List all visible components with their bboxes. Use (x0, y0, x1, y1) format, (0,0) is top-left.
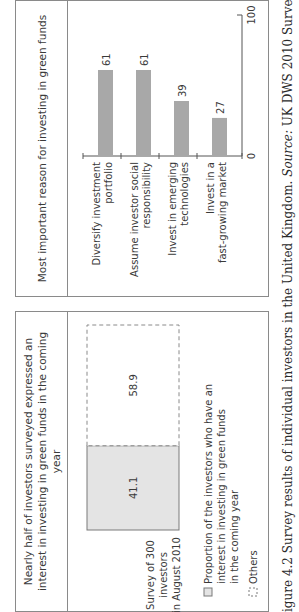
source-label: Source: (281, 130, 295, 181)
stack-data-label: 41.1 (128, 477, 139, 499)
legend-swatch-others (249, 588, 257, 596)
value-tick-label: 0 (246, 153, 257, 159)
bar-category-label: responsibility (141, 162, 152, 229)
stack-data-label: 58.9 (128, 374, 139, 396)
bar-chart-panel-title: Most important reason for investing in g… (16, 1, 68, 296)
legend-label-interested: interest in investing in green funds (216, 409, 227, 584)
stack-category-label: Survey of 300 (145, 540, 156, 610)
bar-category-label: Invest in emerging (167, 162, 178, 256)
bar-data-label: 27 (215, 101, 226, 114)
stacked-bar-panel: Nearly half of investors surveyed expres… (15, 311, 269, 612)
figure-label: igure 4.2 (281, 557, 295, 612)
stacked-bar-chart: 41.158.9Survey of 300investorsin August … (68, 312, 268, 611)
legend-label-interested: Proportion of the investors who have an (203, 384, 214, 584)
legend-label-interested: in the coming year (229, 489, 240, 584)
stacked-bar-panel-title: Nearly half of investors surveyed expres… (16, 312, 68, 611)
stack-category-label: in August 2010 (171, 537, 182, 612)
bar-category-label: Invest in a (205, 162, 216, 214)
bar-category-label: Diversify investment (91, 162, 102, 266)
bar (174, 101, 189, 156)
bar (212, 118, 227, 156)
stack-category-label: investors (158, 552, 169, 598)
bar-data-label: 61 (139, 53, 150, 66)
source-text: UK DWS 2010 Survey (281, 0, 295, 130)
bar-category-label: portfolio (103, 162, 114, 204)
bar-data-label: 39 (177, 84, 188, 97)
bar (136, 70, 151, 156)
legend-swatch-interested (204, 588, 212, 596)
bar-category-label: Assume investor social (129, 162, 140, 277)
figure: Nearly half of investors surveyed expres… (0, 0, 299, 612)
bar-category-label: fast-growing market (217, 162, 228, 263)
bar-chart: 010061Diversify investmentportfolio61Ass… (68, 1, 268, 296)
bar-data-label: 61 (101, 53, 112, 66)
caption-text: Survey results of individual investors i… (281, 181, 295, 557)
value-tick-label: 100 (246, 5, 257, 24)
bar-category-label: technologies (179, 162, 190, 226)
bar (98, 70, 113, 156)
legend-label-others: Others (248, 550, 259, 584)
bar-chart-panel: Most important reason for investing in g… (15, 0, 269, 297)
figure-caption: igure 4.2 Survey results of individual i… (278, 0, 299, 612)
